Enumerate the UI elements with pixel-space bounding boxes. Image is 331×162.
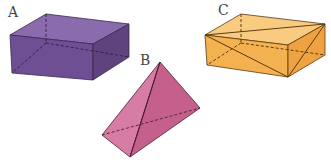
figure-canvas [0, 0, 331, 162]
shape-c-box [205, 14, 325, 77]
label-b: B [140, 53, 150, 67]
label-a: A [8, 5, 18, 19]
shape-b-tetrahedron [102, 62, 200, 157]
shape-a-box [10, 14, 129, 80]
label-c: C [218, 3, 229, 17]
